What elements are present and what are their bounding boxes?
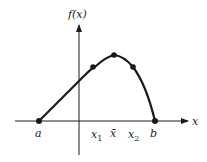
label-b: b [150, 127, 157, 140]
label-x1: x1 [91, 128, 102, 143]
point-a [36, 118, 42, 124]
function-diagram: f(x) x a x1 x̄ x2 b [0, 0, 207, 162]
function-curve [39, 55, 155, 121]
label-xbar: x̄ [110, 127, 117, 140]
point-b [152, 118, 158, 124]
label-x2: x2 [128, 128, 139, 143]
label-a: a [35, 127, 42, 140]
point-x2 [130, 64, 136, 70]
x-axis-label: x [192, 115, 199, 128]
point-x1 [90, 64, 96, 70]
point-xbar [111, 52, 117, 58]
y-axis-label: f(x) [67, 8, 87, 21]
